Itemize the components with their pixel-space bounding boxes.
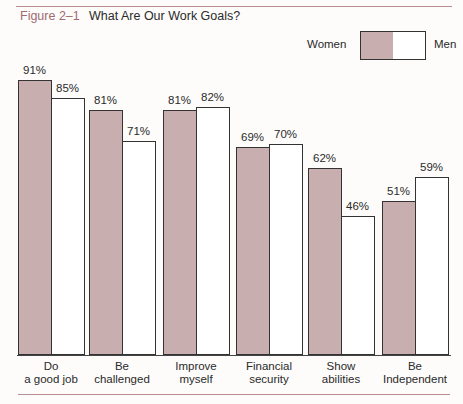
value-label: 85% xyxy=(48,82,88,94)
value-label: 71% xyxy=(119,125,159,137)
category-label: Bechallenged xyxy=(82,360,162,386)
value-label: 81% xyxy=(86,94,126,106)
bar-women xyxy=(308,168,342,355)
bar-men xyxy=(341,216,375,355)
value-label: 51% xyxy=(379,185,419,197)
bottom-rule xyxy=(18,394,450,395)
bar-women xyxy=(236,147,270,355)
bar-women xyxy=(382,201,416,355)
bar-women xyxy=(163,110,197,355)
value-label: 70% xyxy=(266,128,306,140)
bar-chart: 91%85%Doa good job81%71%Bechallenged81%8… xyxy=(0,0,463,404)
chart-baseline xyxy=(17,355,451,356)
bar-men xyxy=(51,98,85,355)
value-label: 91% xyxy=(15,64,55,76)
bar-women xyxy=(89,110,123,355)
category-label: Showabilities xyxy=(301,360,381,386)
bar-men xyxy=(122,141,156,355)
bar-men xyxy=(415,177,449,355)
value-label: 46% xyxy=(338,200,378,212)
value-label: 62% xyxy=(305,152,345,164)
bar-men xyxy=(196,107,230,355)
value-label: 82% xyxy=(193,91,233,103)
bar-women xyxy=(18,80,52,355)
category-label: Financialsecurity xyxy=(229,360,309,386)
value-label: 59% xyxy=(412,161,452,173)
category-label: Doa good job xyxy=(11,360,91,386)
bar-men xyxy=(269,144,303,355)
category-label: Improvemyself xyxy=(156,360,236,386)
category-label: BeIndependent xyxy=(375,360,455,386)
